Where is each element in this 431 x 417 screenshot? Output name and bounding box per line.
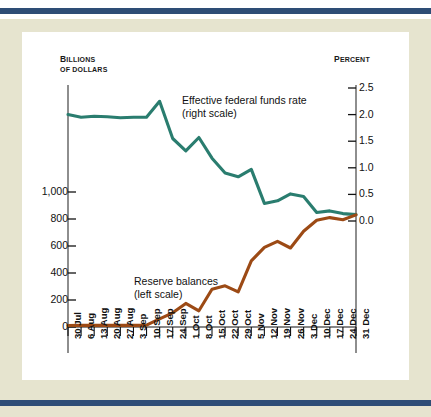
right-axis-tick-label: 2.5 <box>359 81 399 93</box>
x-axis-tick-label: 31 Dec <box>360 308 371 339</box>
x-axis-tick-label: 17 Dec <box>334 308 345 339</box>
left-axis-tick-label: 1,000 <box>22 185 68 197</box>
x-axis-tick-label: 10 Sep <box>151 308 162 339</box>
series-label-ffr-line2: (right scale) <box>182 107 307 120</box>
x-axis-tick-label: 17 Sep <box>164 308 175 339</box>
x-axis-tick-label: 30 Jul <box>72 312 83 339</box>
right-axis-tick-label: 1.5 <box>359 134 399 146</box>
page-margin-top <box>0 0 431 8</box>
x-axis-tick-label: 3 Dec <box>308 314 319 339</box>
x-axis-tick-label: 6 Aug <box>85 313 96 339</box>
x-axis-tick-label: 24 Dec <box>347 308 358 339</box>
left-axis-tick-label: 200 <box>22 293 68 305</box>
series-label-res-line1: Reserve balances <box>134 275 218 288</box>
x-axis-tick-label: 8 Oct <box>203 315 214 339</box>
right-axis-tick-label: 1.0 <box>359 161 399 173</box>
x-axis-tick-label: 26 Nov <box>295 308 306 339</box>
x-axis-tick-label: 5 Nov <box>255 313 266 339</box>
left-axis-tick-label: 0 <box>22 320 68 332</box>
left-axis-tick-label: 800 <box>22 212 68 224</box>
right-axis-tick-label: 0.0 <box>359 214 399 226</box>
decorative-rule-bottom <box>0 400 431 406</box>
x-axis-tick-label: 13 Aug <box>98 308 109 339</box>
series-label-reserve-balances: Reserve balances (left scale) <box>134 275 218 300</box>
x-axis-tick-label: 12 Nov <box>268 308 279 339</box>
right-axis-tick-label: 0.5 <box>359 187 399 199</box>
x-axis-tick-label: 1 Oct <box>190 315 201 339</box>
x-axis-tick-label: 3 Sep <box>137 314 148 339</box>
figure-card: BILLIONS OF DOLLARS PERCENT 020040060080… <box>0 0 431 417</box>
x-axis-tick-label: 19 Nov <box>281 308 292 339</box>
left-axis-tick-label: 400 <box>22 266 68 278</box>
x-axis-tick-label: 29 Oct <box>242 310 253 339</box>
x-axis-tick-label: 10 Dec <box>321 308 332 339</box>
x-axis-tick-label: 24 Sep <box>177 308 188 339</box>
x-axis-tick-label: 15 Oct <box>216 310 227 339</box>
x-axis-tick-label: 22 Oct <box>229 310 240 339</box>
x-axis-tick-label: 27 Aug <box>124 308 135 339</box>
decorative-rule-top <box>0 8 431 14</box>
chart-plot-card: BILLIONS OF DOLLARS PERCENT 020040060080… <box>22 32 409 380</box>
series-label-res-line2: (left scale) <box>134 288 218 301</box>
series-label-ffr-line1: Effective federal funds rate <box>182 94 307 107</box>
series-label-federal-funds-rate: Effective federal funds rate (right scal… <box>182 94 307 119</box>
right-axis-tick-label: 2.0 <box>359 108 399 120</box>
left-axis-tick-label: 600 <box>22 239 68 251</box>
x-axis-tick-label: 20 Aug <box>111 308 122 339</box>
